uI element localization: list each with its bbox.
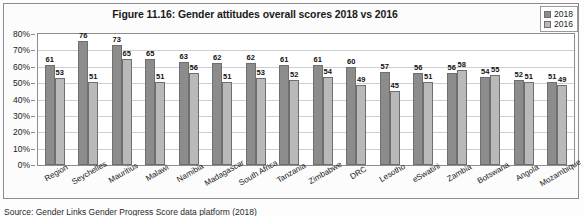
bar-value-label: 57	[381, 63, 389, 71]
bar-value-label: 51	[424, 73, 432, 81]
bar-group: 5251	[507, 34, 541, 165]
bar-2018[interactable]: 52	[514, 80, 524, 165]
y-axis-tick-mark	[31, 67, 35, 68]
bar-2018[interactable]: 61	[313, 65, 323, 165]
y-axis-tick-label: 60%	[13, 63, 30, 71]
bar-2018[interactable]: 54	[480, 77, 490, 165]
bar-value-label: 61	[314, 56, 322, 64]
legend-label: 2018	[554, 9, 573, 19]
y-axis-tick-mark	[31, 83, 35, 84]
bar-2016[interactable]: 53	[55, 78, 65, 165]
x-axis-tick: Mozambique	[541, 167, 575, 213]
y-axis-tick-label: 80%	[13, 30, 30, 38]
y-axis-tick-mark	[31, 116, 35, 117]
x-axis-tick: Lesotho	[373, 167, 407, 213]
bar-group: 7651	[72, 34, 106, 165]
bar-2018[interactable]: 61	[279, 65, 289, 165]
bar-2016[interactable]: 49	[356, 85, 366, 165]
bar-value-label: 62	[213, 54, 221, 62]
bar-groups: 6153765173656551635662516253615261546049…	[38, 34, 574, 165]
bar-2018[interactable]: 56	[413, 73, 423, 165]
bar-group: 5745	[373, 34, 407, 165]
bar-group: 6154	[306, 34, 340, 165]
x-axis-tick: Tanzania	[272, 167, 306, 213]
bar-2016[interactable]: 51	[222, 82, 232, 166]
bar-value-label: 51	[548, 73, 556, 81]
chart-legend: 20182016	[540, 6, 578, 32]
bar-2016[interactable]: 58	[457, 70, 467, 165]
bar-2018[interactable]: 60	[346, 67, 356, 165]
chart-title: Figure 11.16: Gender attitudes overall s…	[40, 8, 470, 20]
bar-value-label: 56	[190, 64, 198, 72]
x-axis-tick: Zambia	[441, 167, 475, 213]
y-axis: 80%70%60%50%40%30%20%10%0%	[0, 33, 35, 166]
bar-2018[interactable]: 63	[179, 62, 189, 165]
bar-value-label: 49	[558, 76, 566, 84]
bar-2016[interactable]: 55	[490, 75, 500, 165]
y-axis-tick-label: 10%	[13, 145, 30, 153]
y-axis-tick-label: 20%	[13, 128, 30, 136]
bar-value-label: 54	[481, 68, 489, 76]
y-axis-tick-mark	[31, 100, 35, 101]
bar-group: 6152	[273, 34, 307, 165]
bar-value-label: 62	[247, 54, 255, 62]
bar-value-label: 61	[280, 56, 288, 64]
bar-2018[interactable]: 73	[112, 45, 122, 165]
bar-value-label: 51	[156, 73, 164, 81]
x-axis-tick: Zimbabwe	[306, 167, 340, 213]
bar-value-label: 63	[180, 53, 188, 61]
legend-item: 2016	[544, 19, 573, 29]
x-axis-tick: eSwatini	[407, 167, 441, 213]
bar-2018[interactable]: 62	[246, 63, 256, 165]
bar-2016[interactable]: 51	[88, 82, 98, 166]
x-axis-tick: Botswana	[474, 167, 508, 213]
legend-swatch-icon	[544, 21, 551, 28]
legend-label: 2016	[554, 19, 573, 29]
bar-2016[interactable]: 65	[122, 59, 132, 165]
bar-value-label: 53	[257, 69, 265, 77]
legend-item: 2018	[544, 9, 573, 19]
bar-2018[interactable]: 56	[447, 73, 457, 165]
bar-2018[interactable]: 61	[45, 65, 55, 165]
bar-value-label: 54	[324, 68, 332, 76]
y-axis-tick-mark	[31, 165, 35, 166]
x-axis-tick: DRC	[340, 167, 374, 213]
bar-value-label: 52	[290, 71, 298, 79]
bar-2016[interactable]: 51	[524, 82, 534, 166]
bar-value-label: 52	[515, 71, 523, 79]
y-axis-tick-mark	[31, 34, 35, 35]
y-axis-tick-label: 0%	[18, 161, 30, 169]
bar-value-label: 65	[146, 50, 154, 58]
bar-value-label: 45	[391, 82, 399, 90]
bar-2016[interactable]: 51	[155, 82, 165, 166]
bar-2016[interactable]: 51	[423, 82, 433, 166]
bar-value-label: 58	[458, 61, 466, 69]
y-axis-tick-label: 70%	[13, 46, 30, 54]
bar-2016[interactable]: 49	[557, 85, 567, 165]
bar-2018[interactable]: 65	[145, 59, 155, 165]
bar-group: 6049	[340, 34, 374, 165]
bar-2016[interactable]: 54	[323, 77, 333, 165]
bar-value-label: 51	[89, 73, 97, 81]
bar-2018[interactable]: 51	[547, 82, 557, 166]
bar-2016[interactable]: 56	[189, 73, 199, 165]
x-axis-tick: Angola	[508, 167, 542, 213]
bar-group: 5651	[407, 34, 441, 165]
y-axis-tick-mark	[31, 132, 35, 133]
bar-2016[interactable]: 52	[289, 80, 299, 165]
bar-value-label: 55	[491, 66, 499, 74]
bar-2016[interactable]: 45	[390, 91, 400, 165]
bar-value-label: 56	[414, 64, 422, 72]
bar-group: 5658	[440, 34, 474, 165]
y-axis-tick-label: 40%	[13, 96, 30, 104]
bar-2018[interactable]: 57	[380, 72, 390, 165]
bar-group: 6153	[38, 34, 72, 165]
bar-value-label: 76	[79, 32, 87, 40]
bar-2018[interactable]: 76	[78, 41, 88, 165]
bar-value-label: 65	[123, 50, 131, 58]
bar-value-label: 49	[357, 76, 365, 84]
bar-value-label: 73	[113, 36, 121, 44]
bar-value-label: 51	[223, 73, 231, 81]
bar-2018[interactable]: 62	[212, 63, 222, 165]
bar-2016[interactable]: 53	[256, 78, 266, 165]
